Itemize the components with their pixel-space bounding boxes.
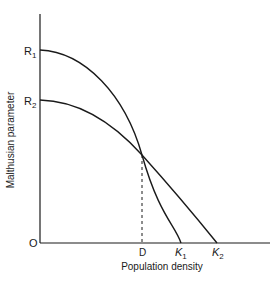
y-axis-title: Malthusian parameter: [5, 91, 16, 188]
curve-r1-k1: [40, 50, 181, 243]
label-r2: R2: [24, 95, 37, 110]
label-r1: R1: [24, 45, 37, 60]
label-k2: K2: [212, 246, 224, 261]
malthusian-diagram: R1 R2 O D K1 K2 Population density Malth…: [0, 0, 278, 284]
label-d: D: [139, 247, 146, 258]
origin-label: O: [29, 237, 38, 249]
curve-r2-k2: [40, 100, 217, 243]
label-k1: K1: [175, 246, 187, 261]
x-axis-title: Population density: [121, 261, 203, 272]
